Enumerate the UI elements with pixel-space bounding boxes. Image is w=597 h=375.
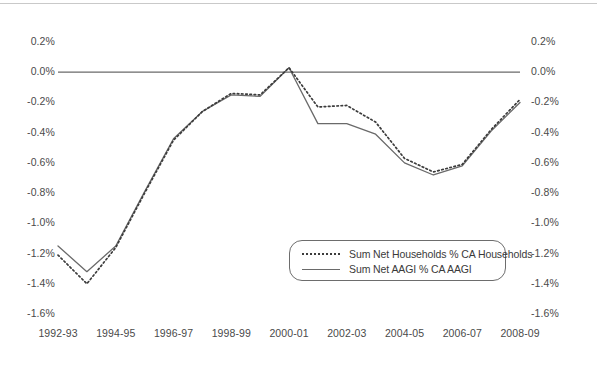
y-tick-left: -0.6% <box>13 156 55 168</box>
chart-page: 0.2%0.0%-0.2%-0.4%-0.6%-0.8%-1.0%-1.2%-1… <box>0 0 597 375</box>
y-tick-right: -1.2% <box>531 247 573 259</box>
y-tick-left: -1.4% <box>13 277 55 289</box>
y-tick-left: -0.2% <box>13 95 55 107</box>
y-tick-left: 0.2% <box>13 35 55 47</box>
y-tick-right: -0.8% <box>531 186 573 198</box>
y-tick-right: -0.4% <box>531 126 573 138</box>
y-tick-left: -0.4% <box>13 126 55 138</box>
legend-label-households: Sum Net Households % CA Households <box>349 248 532 260</box>
x-tick-label: 1996-97 <box>144 327 204 339</box>
x-tick-label: 1992-93 <box>28 327 88 339</box>
x-tick-label: 1994-95 <box>86 327 146 339</box>
y-tick-right: -0.2% <box>531 95 573 107</box>
y-tick-right: -1.6% <box>531 307 573 319</box>
x-tick-label: 1998-99 <box>201 327 261 339</box>
legend-entry-households: Sum Net Households % CA Households <box>300 246 532 261</box>
line-chart: 0.2%0.0%-0.2%-0.4%-0.6%-0.8%-1.0%-1.2%-1… <box>0 0 597 375</box>
x-tick-label: 2006-07 <box>432 327 492 339</box>
y-tick-right: -0.6% <box>531 156 573 168</box>
y-tick-right: 0.0% <box>531 65 573 77</box>
x-tick-label: 2008-09 <box>490 327 550 339</box>
solid-line-swatch-icon <box>300 264 342 274</box>
x-tick-label: 2000-01 <box>259 327 319 339</box>
y-tick-right: -1.0% <box>531 216 573 228</box>
y-tick-right: -1.4% <box>531 277 573 289</box>
x-tick-label: 2002-03 <box>317 327 377 339</box>
y-tick-left: -1.0% <box>13 216 55 228</box>
chart-legend: Sum Net Households % CA Households Sum N… <box>289 240 506 281</box>
y-tick-left: 0.0% <box>13 65 55 77</box>
x-tick-label: 2004-05 <box>375 327 435 339</box>
dotted-line-swatch-icon <box>300 249 342 259</box>
y-tick-left: -0.8% <box>13 186 55 198</box>
legend-entry-aagi: Sum Net AAGI % CA AAGI <box>300 261 472 276</box>
y-tick-right: 0.2% <box>531 35 573 47</box>
y-tick-left: -1.6% <box>13 307 55 319</box>
legend-label-aagi: Sum Net AAGI % CA AAGI <box>349 263 472 275</box>
y-tick-left: -1.2% <box>13 247 55 259</box>
plot-canvas <box>0 0 597 375</box>
